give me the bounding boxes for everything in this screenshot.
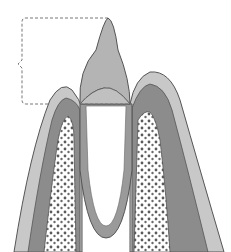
gingiva-right (130, 72, 224, 252)
tooth-root (80, 104, 132, 238)
tooth-diagram (0, 0, 231, 252)
tooth-diagram-svg (0, 0, 231, 252)
gingiva-left (14, 87, 82, 252)
tooth-crown (80, 18, 130, 104)
